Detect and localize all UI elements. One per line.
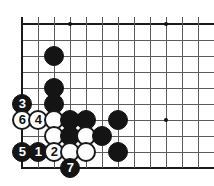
stone-black[interactable] [108,142,128,162]
grid-line-vertical-11 [182,17,183,168]
grid-line-vertical-12 [198,17,199,168]
move-number-label: 2 [51,144,58,159]
stone-white[interactable] [76,142,96,162]
star-point-upper-right [164,22,168,26]
move-number-label: 4 [35,112,42,127]
move-number-label: 6 [19,112,26,127]
grid-line-vertical-8 [134,17,135,168]
stone-black[interactable] [108,110,128,130]
move-number-label: 1 [35,144,42,159]
goban[interactable]: 3645127 [0,0,214,186]
star-point-upper-left [68,22,72,26]
move-number-label: 5 [19,144,26,159]
stone-black[interactable] [92,126,112,146]
move-number-label: 3 [19,96,26,111]
grid-line-vertical-10 [166,17,167,168]
star-point-lower-right [164,118,168,122]
move-number-label: 7 [67,160,74,175]
stone-black[interactable] [44,46,64,66]
stone-black-move-7[interactable]: 7 [60,158,80,178]
grid-line-vertical-9 [150,17,151,168]
go-board-diagram: 3645127 [0,0,214,186]
